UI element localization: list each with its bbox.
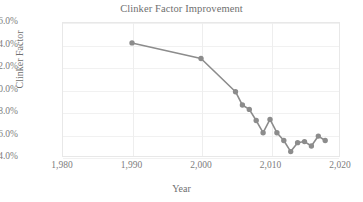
y-tick-label: 84.0% (0, 39, 18, 49)
y-tick-label: 86.0% (0, 16, 18, 26)
data-point-marker (309, 143, 314, 148)
data-point-marker (129, 40, 134, 45)
x-tick-label: 1,990 (110, 160, 154, 170)
data-point-marker (254, 118, 259, 123)
series-line (132, 43, 325, 152)
y-tick-label: 82.0% (0, 61, 18, 71)
data-point-marker (233, 89, 238, 94)
x-axis-title: Year (0, 183, 363, 194)
data-point-marker (260, 130, 265, 135)
series-line-clinker-factor (63, 23, 339, 156)
chart-container: Clinker Factor Improvement Clinker Facto… (0, 0, 363, 202)
y-tick-label: 76.0% (0, 129, 18, 139)
plot-area (62, 22, 340, 157)
data-point-marker (302, 139, 307, 144)
data-point-marker (240, 102, 245, 107)
gridline-horizontal (63, 158, 339, 159)
data-point-marker (316, 133, 321, 138)
data-point-marker (198, 56, 203, 61)
y-tick-label: 78.0% (0, 106, 18, 116)
data-point-marker (247, 107, 252, 112)
data-point-marker (281, 138, 286, 143)
x-tick-label: 2,020 (318, 160, 362, 170)
data-point-marker (288, 149, 293, 154)
y-tick-label: 74.0% (0, 151, 18, 161)
x-tick-label: 1,980 (40, 160, 84, 170)
x-tick-label: 2,000 (179, 160, 223, 170)
data-point-marker (295, 140, 300, 145)
x-tick-label: 2,010 (249, 160, 293, 170)
data-point-marker (274, 130, 279, 135)
y-tick-label: 80.0% (0, 84, 18, 94)
data-point-marker (267, 117, 272, 122)
data-point-marker (323, 138, 328, 143)
chart-title: Clinker Factor Improvement (0, 3, 363, 14)
